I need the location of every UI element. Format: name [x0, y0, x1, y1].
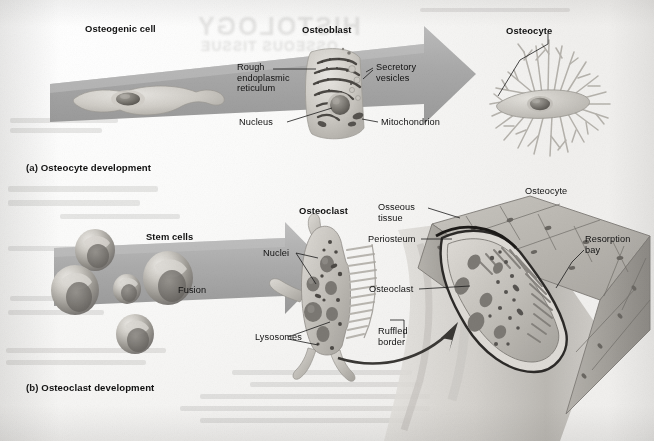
- figure-page: HISTOLOGY OSSEOUS TISSUE: [0, 0, 654, 441]
- paper-grain-texture: [0, 0, 654, 441]
